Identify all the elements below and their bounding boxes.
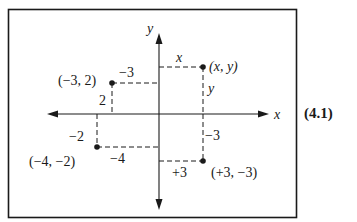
point-neg4-neg2-label: (−4, −2) [29,154,75,170]
point-general-dot [200,64,206,70]
y-axis-label: y [145,21,154,36]
point-neg4-neg2: (−4, −2) −4 −2 [29,114,159,170]
point-neg3-2-y-proj: 2 [99,93,106,108]
point-general-y-proj: y [206,81,215,96]
x-axis-right-arrow-icon [258,111,269,118]
point-neg3-2-dot [109,80,115,86]
point-general: (x, y) x y [159,50,238,114]
point-general-x-proj: x [175,50,183,65]
point-3-neg3-y-proj: −3 [205,128,220,143]
point-neg4-neg2-x-proj: −4 [110,151,125,166]
y-axis: y [145,21,163,210]
y-axis-down-arrow-icon [156,199,163,210]
point-neg4-neg2-dot [94,144,100,150]
x-axis-label: x [273,107,281,122]
point-3-neg3-dot [200,158,206,164]
x-axis-left-arrow-icon [47,111,58,118]
point-general-label: (x, y) [209,59,238,75]
point-3-neg3-label: (+3, −3) [211,165,257,181]
point-3-neg3-x-proj: +3 [172,165,187,180]
x-axis: x [47,107,281,122]
point-3-neg3: (+3, −3) +3 −3 [159,114,257,181]
point-neg4-neg2-y-proj: −2 [69,129,84,144]
y-axis-up-arrow-icon [156,33,163,44]
point-neg3-2: (−3, 2) −3 2 [58,65,159,114]
point-neg3-2-label: (−3, 2) [58,73,97,89]
cartesian-coordinates-figure: x y (x, y) x y (−3, 2) −3 2 (−4, −2) −4 … [0,0,357,222]
point-neg3-2-x-proj: −3 [119,65,134,80]
equation-number: (4.1) [304,105,333,122]
